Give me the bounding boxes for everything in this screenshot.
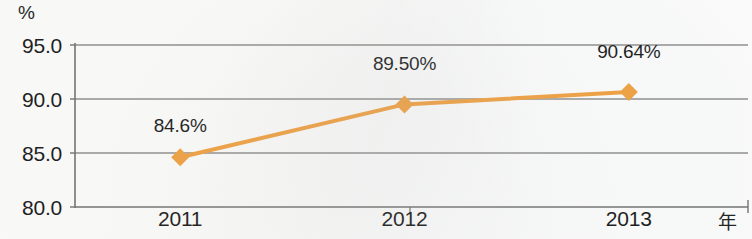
- data-label-2012: 89.50%: [350, 53, 460, 75]
- x-axis-tick-label: 2011: [135, 207, 225, 231]
- x-axis-tick-label: 2012: [360, 207, 450, 231]
- data-label-2011: 84.6%: [125, 115, 235, 137]
- plot-area: [0, 0, 752, 239]
- x-axis-tick-label: 2013: [584, 207, 674, 231]
- data-point-marker[interactable]: [396, 95, 414, 113]
- x-axis-unit-label: 年: [718, 207, 737, 234]
- data-label-2013: 90.64%: [574, 41, 684, 63]
- line-chart: % 95.0 90.0 85.0 80.0 84.6% 89.50% 90.64…: [0, 0, 752, 239]
- data-point-marker[interactable]: [171, 148, 189, 166]
